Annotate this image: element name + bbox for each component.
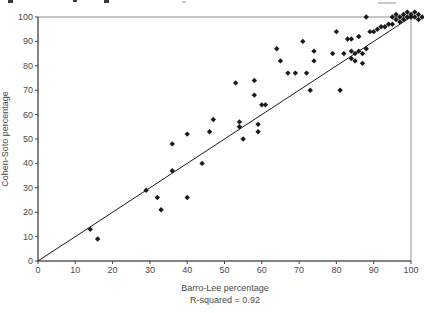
data-point bbox=[237, 119, 242, 124]
data-point bbox=[337, 88, 342, 93]
data-point bbox=[252, 92, 257, 97]
data-point bbox=[341, 51, 346, 56]
data-point bbox=[88, 227, 93, 232]
y-tick-label: 0 bbox=[28, 256, 33, 266]
data-point bbox=[255, 129, 260, 134]
x-tick-label: 100 bbox=[403, 265, 418, 275]
data-point bbox=[311, 48, 316, 53]
cropped-caption-fragment bbox=[182, 1, 186, 3]
data-point bbox=[170, 168, 175, 173]
x-tick-label: 30 bbox=[145, 265, 155, 275]
figure-canvas: 0102030405060708090100010203040506070809… bbox=[0, 0, 424, 313]
data-point bbox=[349, 36, 354, 41]
y-tick-label: 90 bbox=[23, 36, 33, 46]
data-point bbox=[278, 58, 283, 63]
data-point bbox=[304, 70, 309, 75]
cropped-caption-fragment bbox=[104, 0, 109, 3]
y-tick-label: 100 bbox=[18, 12, 33, 22]
y-tick-label: 10 bbox=[23, 232, 33, 242]
y-tick-label: 40 bbox=[23, 158, 33, 168]
x-tick-label: 40 bbox=[182, 265, 192, 275]
cropped-caption-fragment bbox=[8, 0, 13, 3]
data-point bbox=[207, 129, 212, 134]
data-point bbox=[143, 188, 148, 193]
y-tick-label: 70 bbox=[23, 85, 33, 95]
y-tick-label: 30 bbox=[23, 183, 33, 193]
data-point bbox=[360, 61, 365, 66]
x-tick-label: 50 bbox=[219, 265, 229, 275]
x-tick-label: 20 bbox=[108, 265, 118, 275]
data-point bbox=[158, 207, 163, 212]
x-tick-label: 70 bbox=[294, 265, 304, 275]
data-point bbox=[263, 102, 268, 107]
cropped-caption-fragment bbox=[73, 0, 77, 2]
r-squared-annotation: R-squared = 0.92 bbox=[190, 295, 260, 305]
data-point bbox=[311, 58, 316, 63]
data-point bbox=[185, 195, 190, 200]
data-point bbox=[211, 117, 216, 122]
y-axis-label: Cohen-Soto percentage bbox=[0, 91, 10, 187]
y-tick-label: 50 bbox=[23, 134, 33, 144]
x-tick-label: 90 bbox=[369, 265, 379, 275]
data-point bbox=[95, 236, 100, 241]
cropped-caption-fragment bbox=[378, 2, 396, 4]
data-point bbox=[330, 51, 335, 56]
data-point bbox=[293, 70, 298, 75]
data-point bbox=[334, 29, 339, 34]
data-point bbox=[240, 136, 245, 141]
y-tick-label: 80 bbox=[23, 61, 33, 71]
data-point bbox=[252, 78, 257, 83]
data-point bbox=[356, 34, 361, 39]
x-tick-label: 80 bbox=[331, 265, 341, 275]
data-point bbox=[274, 46, 279, 51]
data-point bbox=[364, 46, 369, 51]
x-tick-label: 60 bbox=[257, 265, 267, 275]
x-tick-label: 10 bbox=[70, 265, 80, 275]
data-point bbox=[199, 161, 204, 166]
x-tick-label: 0 bbox=[35, 265, 40, 275]
data-point bbox=[300, 39, 305, 44]
data-point bbox=[233, 80, 238, 85]
y-tick-label: 20 bbox=[23, 207, 33, 217]
data-point bbox=[185, 131, 190, 136]
x-axis-label: Barro-Lee percentage bbox=[181, 283, 269, 293]
data-points bbox=[88, 9, 424, 241]
y-tick-label: 60 bbox=[23, 110, 33, 120]
scatter-chart: 0102030405060708090100010203040506070809… bbox=[0, 0, 424, 313]
data-point bbox=[308, 88, 313, 93]
data-point bbox=[155, 195, 160, 200]
data-point bbox=[255, 122, 260, 127]
data-point bbox=[364, 14, 369, 19]
data-point bbox=[285, 70, 290, 75]
data-point bbox=[390, 22, 395, 27]
data-point bbox=[170, 141, 175, 146]
data-point bbox=[237, 124, 242, 129]
